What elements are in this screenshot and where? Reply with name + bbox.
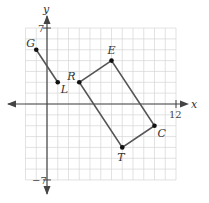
coordinate-plane: x y 12 7 −7 GLRECT [0, 0, 209, 203]
x-axis-left-arrow-icon [7, 101, 16, 108]
point-label-R: R [66, 70, 75, 83]
y-axis-down-arrow-icon [44, 186, 51, 195]
point-label-C: C [158, 127, 167, 140]
x-tick-label-12: 12 [169, 109, 182, 120]
point-T [120, 145, 125, 150]
coordinate-plane-figure: x y 12 7 −7 GLRECT [0, 0, 209, 203]
x-axis-label: x [191, 98, 198, 111]
y-tick-label-neg7: −7 [32, 175, 47, 186]
point-label-L: L [60, 83, 68, 96]
y-axis-up-arrow-icon [44, 15, 51, 24]
point-E [109, 58, 114, 63]
point-C [152, 123, 157, 128]
x-axis-right-arrow-icon [180, 101, 189, 108]
point-L [55, 80, 60, 85]
y-axis-label: y [42, 3, 50, 16]
point-label-G: G [26, 37, 35, 50]
point-R [77, 80, 82, 85]
point-label-E: E [107, 44, 116, 57]
axes: x y 12 7 −7 [7, 3, 198, 195]
